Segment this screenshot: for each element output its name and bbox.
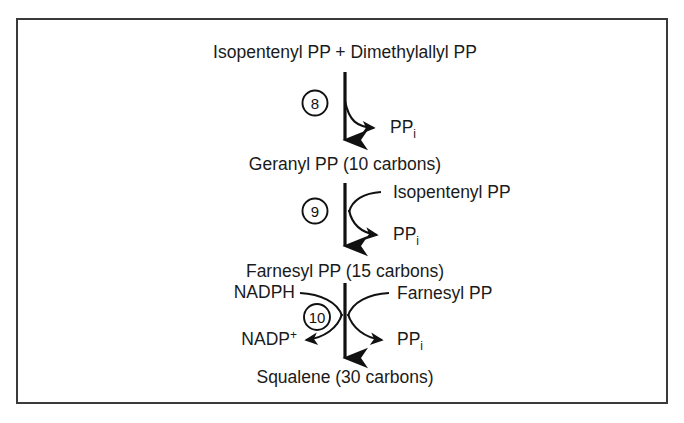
step-10-output-ppi: PPi: [397, 329, 423, 353]
step-10-output-ppi-curve: [348, 314, 382, 340]
metabolite-geranyl-pp: Geranyl PP (10 carbons): [249, 154, 441, 174]
step-9-number: 9: [311, 203, 319, 220]
step-8-number: 8: [311, 95, 319, 112]
step-10-output-nadp-plus: NADP+: [241, 328, 297, 349]
ppi-base-1: PP: [390, 117, 413, 137]
ppi-subscript-1: i: [413, 127, 416, 141]
ppi-subscript-2: i: [416, 234, 419, 248]
ppi-subscript-3: i: [420, 339, 423, 353]
metabolite-farnesyl-pp: Farnesyl PP (15 carbons): [246, 261, 444, 281]
step-10-input-farnesyl-curve: [348, 293, 389, 316]
metabolite-isopentenyl-dimethylallyl: Isopentenyl PP + Dimethylallyl PP: [213, 42, 477, 62]
step-9-input-curve: [349, 192, 381, 212]
step-10-input-farnesyl-pp: Farnesyl PP: [397, 283, 492, 303]
ppi-base-3: PP: [397, 329, 420, 349]
step-8-output-ppi: PPi: [390, 117, 416, 141]
nadp-base: NADP: [241, 329, 290, 349]
step-10-input-nadph: NADPH: [234, 282, 295, 302]
step-9-output-curve: [349, 210, 377, 235]
metabolite-squalene: Squalene (30 carbons): [256, 367, 433, 387]
figure-root: Isopentenyl PP + Dimethylallyl PP 8 PPi …: [0, 0, 684, 423]
step-9-input-isopentenyl-pp: Isopentenyl PP: [393, 182, 511, 202]
step-8-output-curve: [345, 101, 374, 128]
step-10-number: 10: [309, 309, 326, 326]
nadp-superscript: +: [290, 328, 297, 342]
ppi-base-2: PP: [393, 224, 416, 244]
pathway-diagram: Isopentenyl PP + Dimethylallyl PP 8 PPi …: [0, 0, 684, 423]
step-9-output-ppi: PPi: [393, 224, 419, 248]
